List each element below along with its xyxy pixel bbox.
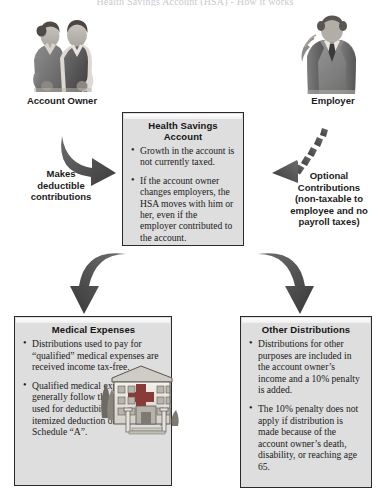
other-bullet-2: The 10% penalty does not apply if distri…	[249, 403, 363, 473]
hsa-box-bullets: Growth in the account is not currently t…	[131, 145, 235, 243]
left-arrow-caption-line3: contributions	[18, 191, 104, 203]
hospital-illustration	[96, 356, 182, 442]
hsa-box-title: Health Savings Account	[131, 120, 235, 142]
account-owner-label: Account Owner	[14, 95, 110, 106]
hsa-box: Health Savings Account Growth in the acc…	[122, 112, 244, 246]
curved-arrow-down-left-icon	[58, 252, 132, 318]
couple-illustration	[22, 14, 100, 92]
right-arrow-caption-line3: (non-taxable to	[278, 193, 380, 205]
right-arrow-caption-line1: Optional	[278, 170, 380, 182]
right-arrow-caption: Optional Contributions (non-taxable to e…	[278, 170, 380, 228]
hsa-bullet-1: Growth in the account is not currently t…	[131, 145, 235, 168]
other-bullet-1: Distributions for other purposes are inc…	[249, 338, 363, 396]
left-arrow-caption-line2: deductible	[18, 180, 104, 192]
other-box-title: Other Distributions	[249, 324, 363, 335]
hsa-bullet-2: If the account owner changes employers, …	[131, 175, 235, 243]
diagram-canvas: Health Savings Account (HSA) - How it wo…	[0, 0, 383, 492]
box-sheen	[242, 318, 370, 323]
other-box-bullets: Distributions for other purposes are inc…	[249, 338, 363, 473]
other-distributions-box: Other Distributions Distributions for ot…	[240, 316, 372, 488]
right-arrow-caption-line4: employee and no	[278, 205, 380, 217]
box-sheen	[124, 114, 242, 119]
employer-label: Employer	[288, 95, 378, 106]
left-arrow-caption: Makes deductible contributions	[18, 168, 104, 203]
left-arrow-caption-line1: Makes	[18, 168, 104, 180]
right-arrow-caption-line2: Contributions	[278, 182, 380, 194]
curved-arrow-down-right-icon	[252, 252, 326, 318]
medical-box-title: Medical Expenses	[23, 324, 164, 335]
page-top-cut-text: Health Savings Account (HSA) - How it wo…	[60, 0, 330, 6]
box-sheen	[16, 318, 170, 323]
right-arrow-caption-line5: payroll taxes)	[278, 216, 380, 228]
businessman-illustration	[298, 14, 366, 94]
